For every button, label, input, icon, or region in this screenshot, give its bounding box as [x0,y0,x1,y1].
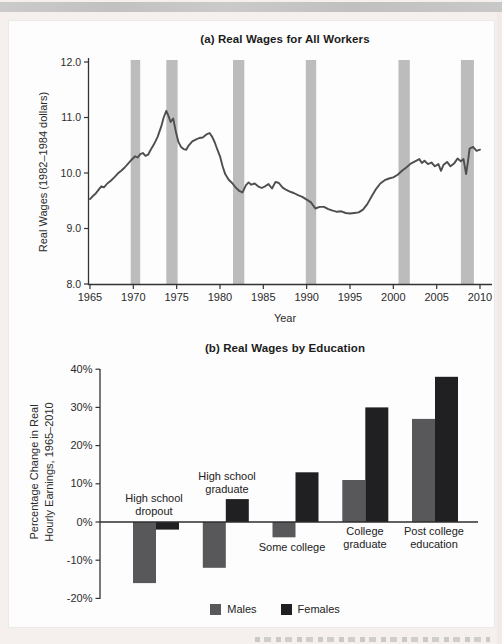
panel-b-y-axis-label-line2: Hourly Earnings, 1965–2010 [42,392,57,552]
panel-b-y-axis-label: Percentage Change in Real Hourly Earning… [27,392,57,552]
females-swatch-icon [281,604,292,615]
legend-item-males: Males [210,603,256,615]
panel-b-y-axis-label-line1: Percentage Change in Real [27,392,42,552]
panel-a-x-axis-label: Year [80,312,490,324]
textbook-figure-page: 12.011.010.09.08.01965197019751980198519… [0,0,502,644]
legend-item-females: Females [281,603,340,615]
category-label-high-school-graduate: High school graduate [192,470,262,496]
legend: Males Females [150,603,400,615]
category-label-college-graduate: College graduate [335,525,395,551]
page-edge-strip [0,2,502,12]
legend-females-label: Females [298,603,340,615]
cropped-caption-text-remnant [255,637,490,642]
panel-a-y-axis-label: Real Wages (1982–1984 dollars) [37,57,53,287]
legend-males-label: Males [227,603,256,615]
category-label-some-college: Some college [242,541,342,554]
category-label-post-college-education: Post college education [398,525,470,551]
panel-a-title: (a) Real Wages for All Workers [80,33,490,45]
page-right-edge [495,12,502,644]
panel-b-title: (b) Real Wages by Education [80,342,490,354]
category-label-high-school-dropout: High school dropout [119,492,189,518]
males-swatch-icon [210,604,221,615]
